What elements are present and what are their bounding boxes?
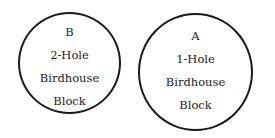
circle-b-line-2: Birdhouse: [20, 73, 119, 85]
circle-a-line-3: Block: [140, 100, 251, 112]
circle-a-letter: A: [140, 31, 251, 43]
circle-b: B 2-Hole Birdhouse Block: [18, 12, 121, 114]
circle-a-line-2: Birdhouse: [140, 77, 251, 89]
circle-b-letter: B: [20, 27, 119, 39]
circle-a: A 1-Hole Birdhouse Block: [138, 13, 253, 131]
circle-a-line-1: 1-Hole: [140, 54, 251, 66]
circle-b-line-1: 2-Hole: [20, 50, 119, 62]
circle-b-line-3: Block: [20, 96, 119, 108]
